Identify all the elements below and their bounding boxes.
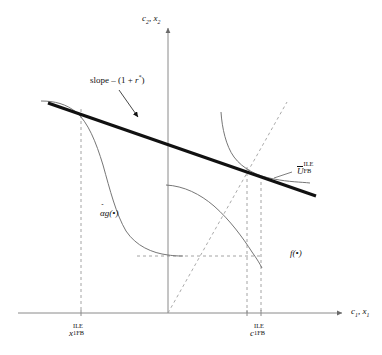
y-axis-label-sub2: 2 (157, 19, 160, 25)
tick-label-x-1fb-sub: 1FB (73, 330, 84, 337)
y-axis-label: c2, x2 (142, 14, 160, 23)
slope-leader-line (119, 90, 138, 117)
tick-label-x-1fb: x ILE 1FB (69, 324, 84, 338)
diagram-canvas (0, 0, 382, 355)
slope-annotation-open: (1 + (118, 75, 133, 85)
forty-five-degree-ray (168, 102, 287, 313)
production-curve-label: ˆαg(•) (100, 209, 118, 218)
slope-annotation: slope – (1 + r*) (90, 76, 144, 85)
utility-leader-line (274, 172, 292, 178)
hat-accent-icon: ˆ (101, 203, 103, 210)
economics-diagram-figure: c2, x2 c1, x1 x ILE 1FB c ILE 1FB slope … (0, 0, 382, 355)
tick-label-c-1fb-sub: 1FB (254, 330, 265, 337)
tick-label-c-1fb: c ILE 1FB (250, 324, 265, 338)
slope-annotation-close: ) (141, 75, 144, 85)
overbar-accent-icon (297, 166, 303, 167)
foreign-curve-label: f(•) (290, 249, 302, 258)
alpha-hat-glyph: ˆα (100, 209, 105, 218)
foreign-curve-label-text: f(•) (290, 248, 302, 258)
utility-curve-label: U ILE FB (297, 162, 313, 176)
x-axis-label: c1, x1 (351, 307, 369, 316)
budget-line (48, 103, 316, 196)
production-curve-label-rest: g(•) (105, 208, 119, 218)
utility-sub: FB (304, 168, 314, 175)
slope-annotation-prefix: slope (90, 75, 109, 85)
x-axis-label-sub2: 1 (366, 312, 369, 318)
axis-group (18, 28, 342, 313)
